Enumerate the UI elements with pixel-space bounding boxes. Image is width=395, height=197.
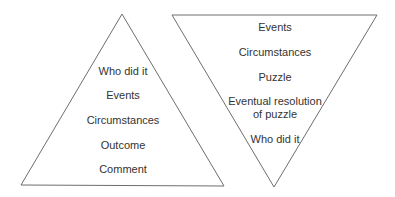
right-item-puzzle: Puzzle [258,71,291,83]
left-item-events: Events [106,89,140,101]
left-item-comment: Comment [99,163,147,175]
left-item-outcome: Outcome [101,139,146,151]
right-item-of-puzzle: of puzzle [253,108,297,120]
right-item-circumstances: Circumstances [239,46,312,58]
left-item-who-did-it: Who did it [99,65,148,77]
right-item-eventual-resolution: Eventual resolution [228,95,322,107]
right-item-who-did-it: Who did it [251,133,300,145]
right-item-events: Events [258,21,292,33]
diagram-canvas [0,0,395,197]
left-item-circumstances: Circumstances [87,114,160,126]
